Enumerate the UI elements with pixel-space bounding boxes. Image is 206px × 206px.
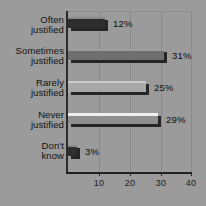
x-tick-label-40: 40 bbox=[181, 178, 201, 188]
clipped-heading-text bbox=[52, 0, 172, 2]
value-label-rarely-justified: 25% bbox=[154, 82, 174, 93]
bar-shadow-bottom bbox=[71, 28, 108, 31]
bar-highlight bbox=[68, 113, 158, 116]
category-label-sometimes-justified: Sometimes justified bbox=[0, 46, 64, 66]
category-label-dont-know: Don't know bbox=[0, 141, 64, 161]
bar-highlight bbox=[68, 145, 77, 147]
bar-often-justified bbox=[68, 17, 108, 31]
bar-shadow-bottom bbox=[71, 60, 167, 63]
x-tick-10 bbox=[99, 172, 100, 176]
bar-highlight bbox=[68, 17, 105, 19]
category-label-rarely-justified: Rarely justified bbox=[0, 78, 64, 98]
bar-chart: 10 20 30 40 Often justified Sometimes ju… bbox=[0, 0, 206, 206]
bar-shadow-bottom bbox=[71, 156, 80, 159]
x-tick-label-10: 10 bbox=[89, 178, 109, 188]
bar-sometimes-justified bbox=[68, 49, 167, 63]
value-label-sometimes-justified: 31% bbox=[172, 50, 192, 61]
bar-highlight bbox=[68, 49, 164, 51]
bar-dont-know bbox=[68, 145, 80, 159]
category-label-never-justified: Never justified bbox=[0, 110, 64, 130]
x-axis-line bbox=[66, 172, 192, 174]
value-label-often-justified: 12% bbox=[113, 18, 133, 29]
category-label-line-2: know bbox=[0, 151, 64, 161]
x-tick-40 bbox=[191, 172, 192, 176]
bar-rarely-justified bbox=[68, 81, 149, 95]
bar-shadow-bottom bbox=[71, 124, 161, 127]
x-tick-30 bbox=[161, 172, 162, 176]
category-label-line-2: justified bbox=[0, 120, 64, 130]
x-tick-20 bbox=[130, 172, 131, 176]
x-tick-label-30: 30 bbox=[151, 178, 171, 188]
value-label-never-justified: 29% bbox=[166, 114, 186, 125]
value-label-dont-know: 3% bbox=[85, 146, 99, 157]
x-tick-label-20: 20 bbox=[120, 178, 140, 188]
bar-shadow-bottom bbox=[71, 92, 149, 95]
category-label-line-2: justified bbox=[0, 88, 64, 98]
gridline-40 bbox=[191, 11, 192, 172]
bar-highlight bbox=[68, 81, 146, 83]
category-label-line-2: justified bbox=[0, 25, 64, 35]
category-label-often-justified: Often justified bbox=[0, 15, 64, 35]
category-label-line-2: justified bbox=[0, 56, 64, 66]
bar-never-justified bbox=[68, 113, 161, 127]
